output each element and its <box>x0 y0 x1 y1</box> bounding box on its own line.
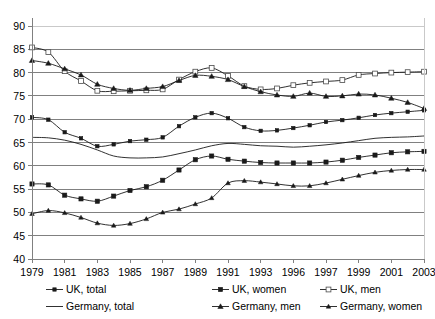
legend-swatch-marker <box>326 287 331 292</box>
data-point-marker <box>95 88 100 93</box>
data-point-marker <box>112 194 116 198</box>
data-point-marker <box>308 161 312 165</box>
x-tick-label: 1996 <box>282 266 306 278</box>
legend-label: Germany, women <box>340 300 422 312</box>
y-tick-label: 90 <box>13 20 25 32</box>
data-point-marker <box>259 160 263 164</box>
x-tick-label: 1985 <box>118 266 142 278</box>
data-point-marker <box>47 118 50 121</box>
data-point-marker <box>406 150 410 154</box>
x-tick-label: 1991 <box>216 266 240 278</box>
data-point-marker <box>46 183 50 187</box>
data-point-marker <box>96 145 99 148</box>
data-point-marker <box>161 178 165 182</box>
data-point-marker <box>308 124 311 127</box>
data-point-marker <box>373 153 377 157</box>
data-point-marker <box>145 138 148 141</box>
data-point-marker <box>112 143 115 146</box>
line-chart: 4045505560657075808590 19791981198319851… <box>0 0 435 319</box>
data-point-marker <box>210 154 214 158</box>
x-tick-label: 1987 <box>151 266 175 278</box>
data-point-marker <box>177 124 180 127</box>
chart-canvas: 4045505560657075808590 19791981198319851… <box>0 0 435 319</box>
y-tick-label: 85 <box>13 43 25 55</box>
data-point-marker <box>373 113 376 116</box>
data-point-marker <box>128 188 132 192</box>
data-point-marker <box>340 158 344 162</box>
data-point-marker <box>242 159 246 163</box>
data-point-marker <box>194 116 197 119</box>
x-tick-label: 2001 <box>380 266 404 278</box>
legend-label: Germany, men <box>232 300 301 312</box>
data-point-marker <box>292 126 295 129</box>
y-tick-label: 70 <box>13 113 25 125</box>
data-point-marker <box>357 116 360 119</box>
data-point-marker <box>291 161 295 165</box>
data-point-marker <box>340 78 345 83</box>
y-tick-label: 75 <box>13 90 25 102</box>
data-point-marker <box>79 197 83 201</box>
x-tick-label: 1981 <box>53 266 77 278</box>
data-point-marker <box>177 168 181 172</box>
data-point-marker <box>161 136 164 139</box>
data-point-marker <box>226 117 229 120</box>
x-tick-label: 1999 <box>347 266 371 278</box>
data-point-marker <box>275 129 278 132</box>
legend-swatch-marker <box>53 288 56 291</box>
legend-swatch-marker <box>218 287 222 291</box>
x-tick-label: 2003 <box>412 266 435 278</box>
y-tick-label: 60 <box>13 160 25 172</box>
y-tick-label: 55 <box>13 183 25 195</box>
data-point-marker <box>144 185 148 189</box>
data-point-marker <box>389 151 393 155</box>
y-tick-label: 65 <box>13 137 25 149</box>
data-point-marker <box>356 73 361 78</box>
data-point-marker <box>324 120 327 123</box>
data-point-marker <box>193 158 197 162</box>
data-point-marker <box>63 131 66 134</box>
data-point-marker <box>324 79 329 84</box>
data-point-marker <box>226 157 230 161</box>
data-point-marker <box>243 125 246 128</box>
data-point-marker <box>405 70 410 75</box>
data-point-marker <box>341 118 344 121</box>
legend-label: UK, men <box>340 283 381 295</box>
x-tick-label: 1993 <box>249 266 273 278</box>
y-tick-label: 80 <box>13 67 25 79</box>
y-tick-label: 40 <box>13 253 25 265</box>
y-tick-label: 50 <box>13 206 25 218</box>
data-point-marker <box>79 137 82 140</box>
x-tick-label: 1989 <box>184 266 208 278</box>
x-tick-label: 1983 <box>86 266 110 278</box>
legend-label: Germany, total <box>66 300 134 312</box>
data-point-marker <box>46 50 51 55</box>
data-point-marker <box>259 129 262 132</box>
data-point-marker <box>128 139 131 142</box>
data-point-marker <box>307 80 312 85</box>
data-point-marker <box>79 79 84 84</box>
data-point-marker <box>389 70 394 75</box>
x-tick-label: 1997 <box>314 266 338 278</box>
data-point-marker <box>357 155 361 159</box>
data-point-marker <box>373 71 378 76</box>
legend-label: UK, women <box>232 283 286 295</box>
data-point-marker <box>390 111 393 114</box>
data-point-marker <box>63 193 67 197</box>
data-point-marker <box>324 160 328 164</box>
y-tick-label: 45 <box>13 230 25 242</box>
legend-label: UK, total <box>66 283 106 295</box>
data-point-marker <box>209 66 214 71</box>
data-point-marker <box>210 111 213 114</box>
x-tick-label: 1979 <box>20 266 44 278</box>
data-point-marker <box>275 161 279 165</box>
data-point-marker <box>406 110 409 113</box>
data-point-marker <box>95 199 99 203</box>
data-point-marker <box>275 86 280 91</box>
data-point-marker <box>291 83 296 88</box>
